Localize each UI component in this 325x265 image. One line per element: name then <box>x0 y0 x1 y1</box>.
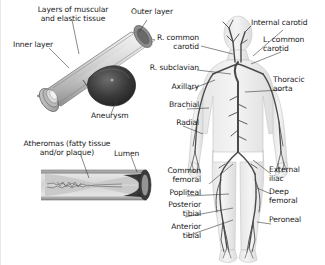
label-posterior-tibial: Posterior tibial <box>147 201 201 219</box>
atheroma-vessel-body <box>41 170 151 200</box>
label-internal-carotid: Internal carotid <box>251 19 325 28</box>
label-layers-of-muscular-and-elastic-tissue: Layers of muscular and elastic tissue <box>27 6 119 24</box>
label-axillary: Axillary <box>141 83 199 92</box>
label-brachial: Brachial <box>141 101 199 110</box>
label-external-iliac: External iliac <box>269 166 323 184</box>
label-r-subclavian: R. subclavian <box>133 64 199 73</box>
label-popliteal: Popliteal <box>143 189 201 198</box>
label-common-femoral: Common femoral <box>149 167 201 185</box>
diagram-canvas: Layers of muscular and elastic tissue In… <box>0 0 325 265</box>
label-thoracic-aorta: Thoracic aorta <box>273 76 323 94</box>
label-r-common-carotid: R. common carotid <box>141 34 199 52</box>
label-peroneal: Peroneal <box>269 216 323 225</box>
label-radial: Radial <box>141 119 199 128</box>
label-anterior-tibial: Anterior tibial <box>147 223 201 241</box>
label-l-common-carotid: L. common carotid <box>263 36 323 54</box>
label-atheromas: Atheromas (fatty tissue and/or plaque) <box>11 140 123 158</box>
label-deep-femoral: Deep femoral <box>269 188 323 206</box>
label-inner-layer: Inner layer <box>13 41 73 50</box>
